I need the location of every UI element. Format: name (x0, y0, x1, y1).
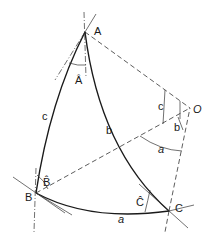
central-angle-label-a: a (158, 143, 164, 155)
tangent-A-1 (55, 32, 85, 80)
spherical-triangle-diagram: A B C O Â B̂ Ĉ c b a c b a (0, 0, 214, 241)
side-label-c: c (42, 110, 48, 122)
angle-label-B: B̂ (43, 175, 50, 188)
tangent-A-2 (84, 12, 86, 78)
vertex-label-C: C (175, 202, 183, 214)
tangent-B-3 (36, 193, 72, 215)
angle-A-arc (69, 63, 86, 65)
radius-OC-extension (165, 211, 169, 232)
central-angle-label-c: c (158, 100, 164, 112)
angle-label-C: Ĉ (136, 196, 144, 208)
center-label-O: O (193, 103, 202, 115)
angle-C-arc (145, 190, 150, 212)
tangent-B-1 (34, 168, 36, 232)
radius-OA (85, 32, 190, 108)
side-b-arc (85, 32, 169, 211)
side-label-b: b (106, 124, 112, 136)
vertex-label-B: B (25, 191, 32, 203)
angle-label-A: Â (75, 74, 83, 86)
side-label-a: a (118, 213, 124, 225)
central-angle-label-b: b (174, 121, 180, 133)
vertex-label-A: A (94, 25, 102, 37)
radius-OB (36, 108, 190, 193)
